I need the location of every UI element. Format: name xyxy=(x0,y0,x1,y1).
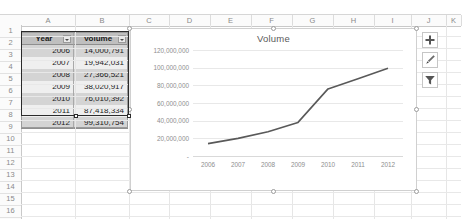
chart-handle-bottom-center[interactable] xyxy=(271,189,276,194)
paintbrush-icon xyxy=(423,53,437,67)
x-axis-tick-label: 2011 xyxy=(343,160,373,170)
grid-line-vertical xyxy=(75,25,76,219)
x-axis-tick-label: 2008 xyxy=(253,160,283,170)
y-axis-tick-label: 100,000,000 xyxy=(133,64,189,71)
x-axis-tick-label: 2006 xyxy=(193,160,223,170)
grid-line-horizontal xyxy=(21,216,461,217)
chart-filters-button[interactable] xyxy=(422,72,438,88)
funnel-icon xyxy=(423,73,437,87)
chart-handle-bottom-left[interactable] xyxy=(127,189,132,194)
y-axis-tick-label: 40,000,000 xyxy=(133,117,189,124)
table-cell-year[interactable]: 2009 xyxy=(21,81,74,93)
row-header-column: 12345678910111213141516 xyxy=(0,25,22,219)
x-axis-tick-label: 2009 xyxy=(283,160,313,170)
x-axis-tick-label: 2007 xyxy=(223,160,253,170)
table-cell-volume[interactable]: 76,010,392 xyxy=(74,93,128,105)
chart-quick-buttons xyxy=(422,32,439,92)
chart-styles-button[interactable] xyxy=(422,52,438,68)
grid-line-horizontal xyxy=(21,204,461,205)
table-cell-volume[interactable]: 87,418,334 xyxy=(74,105,128,117)
table-cell-volume[interactable]: 99,310,754 xyxy=(74,117,128,129)
table-cell-volume[interactable]: 19,942,031 xyxy=(74,57,128,69)
chart-handle-middle-right[interactable] xyxy=(414,107,419,112)
selection-handle-bottom[interactable] xyxy=(74,114,78,118)
table-cell-year[interactable]: 2007 xyxy=(21,57,74,69)
table-header-label: Year xyxy=(27,33,61,45)
table-cell-year[interactable]: 2011 xyxy=(21,105,74,117)
x-axis-tick-label: 2012 xyxy=(373,160,403,170)
chart-handle-top-left[interactable] xyxy=(127,26,132,31)
plus-icon xyxy=(423,33,437,47)
chart-title[interactable]: Volume xyxy=(131,33,416,44)
table-cell-year[interactable]: 2008 xyxy=(21,69,74,81)
y-axis-tick-label: 120,000,000 xyxy=(133,47,189,54)
table-cell-year[interactable]: 2012 xyxy=(21,117,74,129)
y-axis-tick-label: 80,000,000 xyxy=(133,82,189,89)
chart-handle-top-right[interactable] xyxy=(414,26,419,31)
y-axis: -20,000,00040,000,00060,000,00080,000,00… xyxy=(131,50,189,156)
chart-handle-top-center[interactable] xyxy=(271,26,276,31)
table-cell-volume[interactable]: 27,366,521 xyxy=(74,69,128,81)
y-axis-tick-label: 20,000,000 xyxy=(133,135,189,142)
series-line[interactable] xyxy=(208,68,388,143)
row-header-16[interactable]: 16 xyxy=(0,205,21,218)
table-cell-year[interactable]: 2006 xyxy=(21,45,74,57)
grid-line-horizontal xyxy=(21,192,461,193)
table-cell-year[interactable]: 2010 xyxy=(21,93,74,105)
chart-handle-bottom-right[interactable] xyxy=(414,189,419,194)
chart-handle-middle-left[interactable] xyxy=(127,107,132,112)
x-axis-line xyxy=(193,156,403,157)
x-axis-tick-label: 2010 xyxy=(313,160,343,170)
table-cell-volume[interactable]: 14,000,791 xyxy=(74,45,128,57)
grid-line-vertical xyxy=(446,25,447,219)
x-axis: 2006200720082009201020112012 xyxy=(193,160,403,170)
table-header-label: Volume xyxy=(79,33,117,45)
line-series-volume[interactable] xyxy=(193,50,403,156)
chart-object[interactable]: Volume -20,000,00040,000,00060,000,00080… xyxy=(130,28,417,191)
selection-handle-corner[interactable] xyxy=(127,114,131,118)
chart-elements-button[interactable] xyxy=(422,32,438,48)
y-axis-tick-label: - xyxy=(133,153,189,160)
y-axis-tick-label: 60,000,000 xyxy=(133,100,189,107)
table-cell-volume[interactable]: 38,020,917 xyxy=(74,81,128,93)
